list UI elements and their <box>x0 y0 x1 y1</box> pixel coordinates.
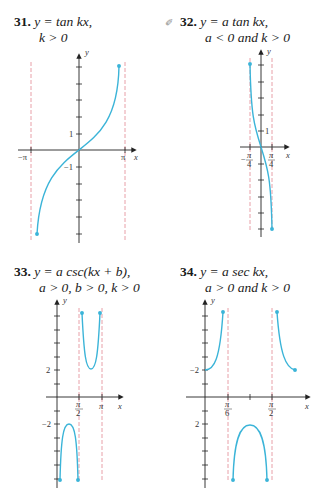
y-axis-label: y <box>84 47 89 57</box>
tick-label-2: 2 <box>46 365 50 375</box>
csc-lower-branch <box>60 424 78 480</box>
y-axis-label: y <box>62 295 67 305</box>
y-axis-label: y <box>266 46 271 56</box>
tick-label-neg-2: −2 <box>190 365 199 375</box>
tick-label-pi: π <box>99 401 104 411</box>
sec-left-branch <box>205 312 223 370</box>
x-axis-label: x <box>304 401 309 411</box>
tick-label-pi-over-4: π 4 <box>268 150 275 169</box>
svg-text:4: 4 <box>247 159 252 169</box>
svg-text:4: 4 <box>269 159 274 169</box>
tick-label-pi: π <box>121 152 126 162</box>
tick-label-pi-over-2: π 2 <box>75 399 83 418</box>
graph-31: y x −π π 1 −1 <box>18 47 138 243</box>
ticks <box>202 316 272 479</box>
x-axis-label: x <box>117 401 122 411</box>
x-axis-label: x <box>285 150 290 160</box>
svg-text:2: 2 <box>269 408 273 418</box>
sec-lower-branch <box>233 425 267 480</box>
graph-33: y x 2 −2 π 2 π <box>42 295 122 488</box>
tick-label-neg-pi: −π <box>18 152 28 162</box>
sec-right-branch <box>277 312 295 370</box>
graph-34: y x −2 2 π 6 π 2 <box>186 295 309 488</box>
tick-label-1: 1 <box>265 126 269 136</box>
tick-label-2: 2 <box>195 419 199 429</box>
graphs-canvas: y x −π π 1 −1 y x 1 − π 4 π <box>0 0 322 500</box>
tick-label-neg-1: −1 <box>64 162 73 172</box>
tick-label-neg-pi-over-4: − π 4 <box>241 150 253 169</box>
svg-text:6: 6 <box>225 408 229 418</box>
graph-32: y x 1 − π 4 π 4 <box>240 46 290 237</box>
csc-upper-branch <box>82 313 100 369</box>
tick-label-1: 1 <box>69 129 73 139</box>
tick-label-pi-over-6: π 6 <box>224 399 232 418</box>
x-axis-label: x <box>133 152 138 162</box>
tick-label-pi-over-2: π 2 <box>268 399 276 418</box>
tick-label-neg-2: −2 <box>42 419 51 429</box>
svg-text:−: − <box>241 154 246 164</box>
svg-text:2: 2 <box>76 408 80 418</box>
y-axis-label: y <box>210 295 215 305</box>
